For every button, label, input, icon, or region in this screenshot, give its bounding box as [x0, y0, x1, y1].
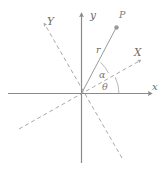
axis-x-label: x [152, 81, 158, 92]
radius-label-r: r [96, 44, 102, 55]
axis-X-label: X [133, 46, 142, 58]
angle-label-theta: θ [102, 81, 108, 92]
angle-label-alpha: α [99, 69, 106, 80]
axis-Y-label: Y [47, 15, 55, 27]
point-P-marker [114, 25, 118, 29]
point-P-label: P [118, 9, 126, 20]
angle-arc-theta [115, 77, 119, 93]
axis-y-label: y [89, 9, 97, 21]
coordinate-diagram-figure: y x Y X P r α θ [0, 0, 162, 174]
diagram-canvas: y x Y X P r α θ [0, 0, 162, 174]
axis-X-dashed-line [19, 60, 141, 129]
